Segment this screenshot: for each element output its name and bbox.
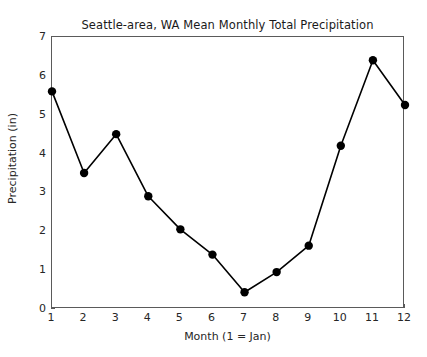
y-tick-label: 1 [20, 264, 46, 275]
plot-area [51, 36, 404, 308]
x-tick-label: 9 [296, 312, 320, 323]
data-point [305, 241, 313, 249]
y-tick-label: 2 [20, 225, 46, 236]
x-tick-label: 6 [199, 312, 223, 323]
data-point [401, 101, 409, 109]
y-axis-label: Precipitation (in) [6, 89, 19, 229]
x-tick-label: 8 [264, 312, 288, 323]
y-tick-label: 3 [20, 186, 46, 197]
x-tick-label: 12 [392, 312, 416, 323]
y-tick-label: 7 [20, 31, 46, 42]
data-point [337, 142, 345, 150]
data-point [144, 192, 152, 200]
x-tick-label: 2 [71, 312, 95, 323]
data-point [176, 225, 184, 233]
series-markers [48, 56, 409, 296]
y-tick-label: 5 [20, 108, 46, 119]
data-point [272, 268, 280, 276]
x-tick-label: 4 [135, 312, 159, 323]
precipitation-series [52, 37, 405, 309]
data-point [80, 169, 88, 177]
x-tick-label: 11 [360, 312, 384, 323]
series-line [52, 60, 405, 292]
data-point [208, 250, 216, 258]
x-tick-label: 3 [103, 312, 127, 323]
chart-figure: Seattle-area, WA Mean Monthly Total Prec… [0, 0, 427, 357]
x-tick-label: 1 [39, 312, 63, 323]
data-point [48, 87, 56, 95]
y-tick-label: 4 [20, 147, 46, 158]
x-axis-label: Month (1 = Jan) [51, 330, 404, 343]
data-point [240, 288, 248, 296]
data-point [112, 130, 120, 138]
data-point [369, 56, 377, 64]
x-tick-label: 7 [232, 312, 256, 323]
x-tick-label: 10 [328, 312, 352, 323]
chart-title: Seattle-area, WA Mean Monthly Total Prec… [51, 18, 404, 32]
y-tick-label: 6 [20, 69, 46, 80]
x-tick-label: 5 [167, 312, 191, 323]
